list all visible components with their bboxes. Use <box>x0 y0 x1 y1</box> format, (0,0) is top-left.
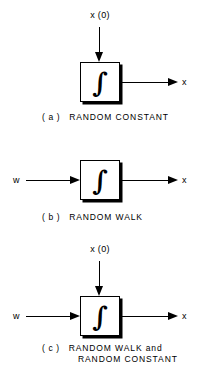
integral-sign-icon: ∫ <box>81 303 119 330</box>
integral-sign-icon: ∫ <box>81 69 119 96</box>
output-arrowhead-b <box>168 176 178 184</box>
left-input-arrowhead-c <box>70 312 80 320</box>
integrator-block-c: ∫ <box>80 296 120 336</box>
top-input-line-a <box>99 27 100 53</box>
integral-sign-icon: ∫ <box>81 167 119 194</box>
top-input-line-c <box>99 261 100 287</box>
output-line-b <box>122 180 169 181</box>
diagram-c: x (0) w ∫ x ( c )RANDOM WALK andRANDOM C… <box>0 235 203 382</box>
output-line-c <box>122 316 169 317</box>
caption-tag-a: ( a ) <box>42 112 60 122</box>
caption-b: ( b )RANDOM WALK <box>42 212 143 223</box>
top-input-arrowhead-a <box>95 52 103 62</box>
caption-tag-b: ( b ) <box>42 212 60 222</box>
top-input-label-a: x (0) <box>80 10 120 20</box>
caption-text-a: RANDOM CONSTANT <box>69 112 169 122</box>
caption-text-b: RANDOM WALK <box>69 212 143 222</box>
caption-c: ( c )RANDOM WALK andRANDOM CONSTANT <box>42 343 178 365</box>
caption-tag-c: ( c ) <box>42 343 60 353</box>
left-input-arrowhead-b <box>70 176 80 184</box>
integrator-block-b: ∫ <box>80 160 120 200</box>
caption-a: ( a )RANDOM CONSTANT <box>42 112 169 123</box>
left-input-line-c <box>26 316 73 317</box>
diagram-a: x (0) ∫ x ( a )RANDOM CONSTANT <box>0 0 203 130</box>
left-input-label-c: w <box>13 311 20 321</box>
top-input-arrowhead-c <box>95 286 103 296</box>
output-arrowhead-c <box>168 312 178 320</box>
output-arrowhead-a <box>168 78 178 86</box>
left-input-line-b <box>26 180 73 181</box>
caption-text-c-line2: RANDOM CONSTANT <box>78 354 178 365</box>
output-label-b: x <box>182 175 187 185</box>
output-label-c: x <box>182 311 187 321</box>
left-input-label-b: w <box>13 175 20 185</box>
caption-text-c-line1: RANDOM WALK and <box>69 343 163 353</box>
top-input-label-c: x (0) <box>80 244 120 254</box>
diagram-b: w ∫ x ( b )RANDOM WALK <box>0 130 203 235</box>
output-line-a <box>122 82 169 83</box>
output-label-a: x <box>182 77 187 87</box>
integrator-block-a: ∫ <box>80 62 120 102</box>
